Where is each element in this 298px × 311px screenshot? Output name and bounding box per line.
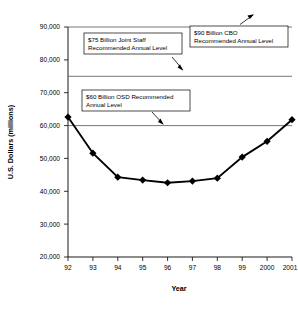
y-tick-label: 60,000 — [40, 122, 61, 129]
x-tick-label: 96 — [164, 264, 172, 271]
annotation-line-1: $90 Billion CBO — [194, 29, 238, 36]
x-tick-label: 95 — [139, 264, 147, 271]
data-point-marker — [164, 179, 171, 186]
annotation-osd: $60 Billion OSD Recommended Annual Level — [82, 90, 190, 125]
axes-frame — [68, 27, 292, 257]
x-tick-marks — [68, 257, 292, 261]
y-axis-title: U.S. Dollars (millions) — [6, 104, 15, 179]
x-tick-label: 99 — [239, 264, 247, 271]
x-tick-label: 2001 — [283, 264, 298, 271]
annotation-line-2: Recommended Annual Level — [194, 37, 273, 44]
y-tick-label: 90,000 — [40, 23, 61, 30]
y-tick-label: 80,000 — [40, 56, 61, 63]
annotation-line-1: $60 Billion OSD Recommended — [86, 93, 174, 100]
annotation-line-2: Annual Level — [86, 101, 122, 108]
annotation-line-1: $75 Billion Joint Staff — [88, 36, 146, 43]
data-series — [64, 113, 295, 186]
x-tick-label: 97 — [189, 264, 197, 271]
series-markers — [64, 113, 295, 186]
x-tick-label: 92 — [64, 264, 72, 271]
data-point-marker — [189, 178, 196, 185]
y-tick-label: 70,000 — [40, 89, 61, 96]
data-point-marker — [139, 177, 146, 184]
annotation-line-2: Recommended Annual Level — [88, 44, 167, 51]
chart-container: 90,000 80,000 70,000 60,000 50,000 40,00… — [0, 0, 298, 311]
x-tick-label: 94 — [114, 264, 122, 271]
y-tick-label: 40,000 — [40, 188, 61, 195]
y-tick-marks — [64, 27, 68, 257]
y-tick-labels: 90,000 80,000 70,000 60,000 50,000 40,00… — [40, 23, 61, 260]
x-tick-label: 98 — [214, 264, 222, 271]
x-tick-labels: 92 93 94 95 96 97 98 99 2000 2001 — [64, 264, 297, 271]
x-tick-label: 2000 — [260, 264, 275, 271]
y-tick-label: 20,000 — [40, 253, 61, 260]
annotation-joint-staff: $75 Billion Joint Staff Recommended Annu… — [84, 33, 183, 71]
x-tick-label: 93 — [89, 264, 97, 271]
y-tick-label: 50,000 — [40, 155, 61, 162]
x-axis-title: Year — [171, 284, 186, 293]
annotation-cbo: $90 Billion CBO Recommended Annual Level — [190, 14, 288, 47]
series-line-annual-funding — [68, 117, 292, 183]
y-tick-label: 30,000 — [40, 221, 61, 228]
line-chart: 90,000 80,000 70,000 60,000 50,000 40,00… — [0, 0, 298, 311]
